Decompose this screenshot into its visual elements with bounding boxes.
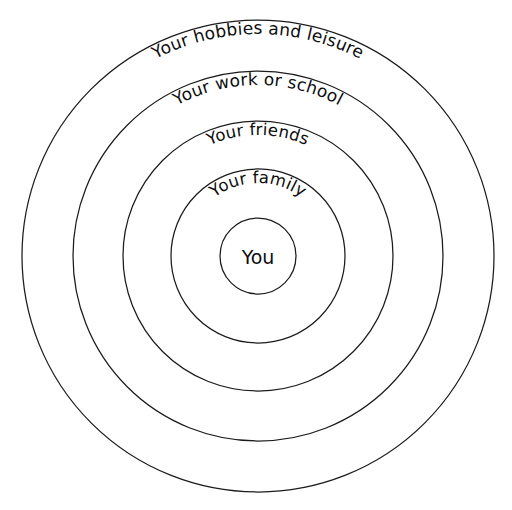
concentric-circles-diagram: Your hobbies and leisure Your work or sc… — [0, 0, 512, 510]
ring-label-hobbies: Your hobbies and leisure — [148, 18, 368, 63]
ring-label-friends: Your friends — [203, 120, 312, 149]
ring-label-work: Your work or school — [168, 69, 346, 110]
circles-canvas: Your hobbies and leisure Your work or sc… — [0, 0, 512, 510]
center-label-you: You — [241, 246, 275, 268]
ring-label-family: Your family — [205, 168, 310, 201]
